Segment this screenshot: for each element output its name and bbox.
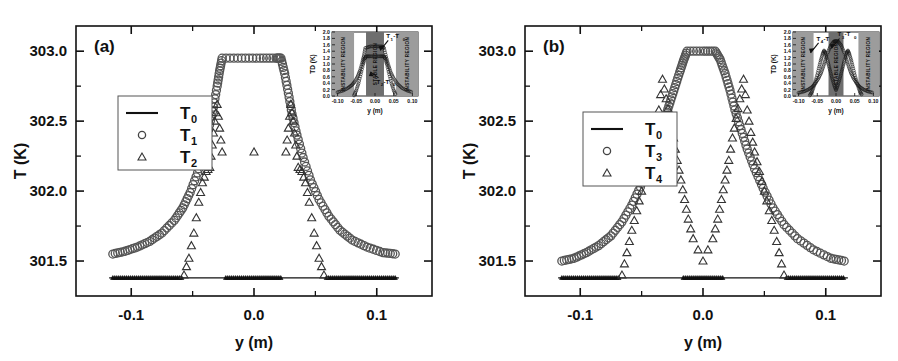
inset-x-tick-label: 0.00 [370,98,380,104]
y-tick-label: 302.5 [29,112,67,129]
legend: T0T3T4 [583,112,677,186]
inset-y-tick-label: 2.0 [784,29,791,35]
inset-region-label: INSTABILITY REGION [341,36,346,91]
legend-label-sub: 4 [656,173,663,185]
x-tick-label: 0.1 [366,306,387,323]
inset-x-axis-title: y (m) [367,107,383,115]
panel-label: (a) [94,37,115,56]
inset-x-tick-label: 0.05 [850,98,860,104]
legend-label-sub: 3 [656,151,662,163]
legend-label: T [180,126,191,145]
figure-container: -0.10.00.1301.5302.0302.5303.0y (m)T (K)… [0,0,898,361]
inset-y-tick-label: 0.2 [784,87,791,93]
inset-region-label: INSTABILITY REGION [405,36,410,91]
inset-x-tick-label: -0.05 [811,98,823,104]
legend-label-sub: 2 [191,157,197,169]
inset-y-tick-label: 0.8 [323,67,330,73]
series-T0 [109,276,399,280]
inset-x-tick-label: 0.00 [831,98,841,104]
inset-region-label: INSTABILITY REGION [866,36,871,91]
inset-x-tick-label: 0.05 [389,98,399,104]
panel-b-plot: -0.10.00.1301.5302.0302.5303.0y (m)T (K)… [449,0,898,361]
inset-y-tick-label: 2.0 [323,29,330,35]
inset-x-tick-label: -0.10 [332,98,344,104]
inset-x-tick-label: 0.10 [407,98,417,104]
inset-y-tick-label: 1.4 [784,48,791,54]
y-axis-title: T (K) [461,143,478,179]
x-tick-label: -0.1 [118,306,144,323]
inset-y-axis-title: TD (K) [309,54,317,74]
inset-y-tick-label: 1.0 [784,61,791,67]
x-tick-label: 0.0 [244,306,265,323]
inset-plot: INSTABILITY REGIONSTABLE REGIONINSTABILI… [309,29,418,115]
legend-label: T [180,148,191,167]
inset-annotation-tail: -T [824,35,830,42]
y-tick-label: 302.0 [29,182,67,199]
legend-label-sub: 0 [656,129,662,141]
inset-x-tick-label: -0.05 [350,98,362,104]
y-tick-label: 302.5 [478,112,516,129]
inset-y-tick-label: 1.6 [784,42,791,48]
inset-plot: INSTABILITY REGIONSTABLE REGIONINSTABILI… [770,29,879,115]
inset-y-tick-label: 1.6 [323,42,330,48]
inset-x-tick-label: 0.10 [868,98,878,104]
legend-label: T [645,164,656,183]
inset-x-tick-label: -0.10 [793,98,805,104]
inset-y-tick-label: 0.8 [784,67,791,73]
panel-b: -0.10.00.1301.5302.0302.5303.0y (m)T (K)… [449,0,898,361]
inset-y-tick-label: 1.8 [784,35,791,41]
inset-y-tick-label: 0.0 [323,93,330,99]
inset-region-label: INSTABILITY REGION [801,36,806,91]
y-tick-label: 303.0 [478,42,516,59]
y-tick-label: 302.0 [478,182,516,199]
inset-y-tick-label: 0.2 [323,87,330,93]
x-axis-title: y (m) [235,334,273,351]
inset-y-tick-label: 0.0 [784,93,791,99]
inset-annotation-tail: -T [393,32,399,39]
y-axis-title: T (K) [12,143,29,179]
legend-label: T [645,142,656,161]
x-axis-title: y (m) [684,334,722,351]
inset-y-axis-title: TD (K) [770,54,778,74]
series-T0 [558,276,848,280]
x-tick-label: 0.0 [693,306,714,323]
x-tick-label: 0.1 [815,306,836,323]
inset-y-tick-label: 0.6 [323,74,330,80]
inset-x-axis-title: y (m) [828,107,844,115]
legend-label: T [645,120,656,139]
legend-label: T [180,104,191,123]
inset-region-label: STABLE REGION [834,42,839,85]
inset-y-tick-label: 1.8 [323,35,330,41]
y-tick-label: 301.5 [29,252,67,269]
inset-y-tick-label: 0.6 [784,74,791,80]
panel-label: (b) [543,37,565,56]
panel-a: -0.10.00.1301.5302.0302.5303.0y (m)T (K)… [0,0,449,361]
y-tick-label: 301.5 [478,252,516,269]
inset-y-tick-label: 1.4 [323,48,330,54]
inset-annotation-tail: -T [844,30,850,37]
y-tick-label: 303.0 [29,42,67,59]
legend-label-sub: 1 [191,135,197,147]
legend-label-sub: 0 [191,113,197,125]
inset-y-tick-label: 1.2 [784,55,791,61]
inset-y-tick-label: 1.2 [323,55,330,61]
panel-a-plot: -0.10.00.1301.5302.0302.5303.0y (m)T (K)… [0,0,449,361]
inset-y-tick-label: 1.0 [323,61,330,67]
x-tick-label: -0.1 [567,306,593,323]
inset-y-tick-label: 0.4 [784,80,791,86]
inset-annotation-tail: -T [383,78,389,85]
inset-y-tick-label: 0.4 [323,80,330,86]
legend: T0T1T2 [118,96,212,170]
